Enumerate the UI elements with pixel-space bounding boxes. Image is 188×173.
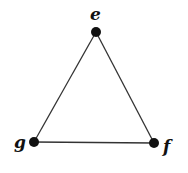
- edge-g-e: [34, 32, 96, 142]
- node-label-f: f: [162, 136, 173, 156]
- edge-f-g: [34, 142, 154, 143]
- node-label-e: e: [90, 4, 101, 24]
- node-g: [29, 137, 39, 147]
- node-label-g: g: [14, 132, 26, 152]
- node-e: [91, 27, 101, 37]
- edge-e-f: [96, 32, 154, 143]
- triangle-graph: e f g: [0, 0, 188, 173]
- node-f: [149, 138, 159, 148]
